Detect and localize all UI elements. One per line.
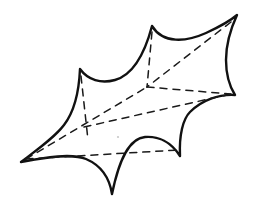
- figure-canvas: [0, 0, 258, 213]
- paper-speck: [117, 136, 119, 138]
- star-polygon-drawing: [0, 0, 258, 213]
